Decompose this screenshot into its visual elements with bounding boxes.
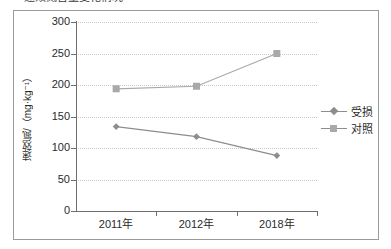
diamond-marker-icon — [321, 106, 347, 118]
data-point-square-1[interactable] — [193, 83, 200, 90]
data-point-diamond-2[interactable] — [273, 152, 280, 159]
figure-frame: 速效氮/（mg·kg⁻¹） 050100150200250300 2011年20… — [13, 10, 379, 240]
legend-item-shousun[interactable]: 受损 — [321, 103, 379, 120]
square-marker-icon — [321, 123, 347, 135]
legend-item-duizhao[interactable]: 对照 — [321, 120, 379, 137]
series-shousun — [113, 123, 280, 159]
series-duizhao — [113, 50, 281, 92]
data-point-square-0[interactable] — [113, 85, 120, 92]
figure-caption-clipped: 速效氮含量变化情况 — [24, 0, 354, 4]
data-point-square-2[interactable] — [273, 50, 280, 57]
data-point-diamond-0[interactable] — [113, 123, 120, 130]
legend-label-shousun: 受损 — [351, 106, 373, 118]
legend-label-duizhao: 对照 — [351, 123, 373, 135]
series-line — [116, 127, 277, 156]
figure-caption-text: 速效氮含量变化情况 — [24, 0, 354, 3]
chart-legend: 受损 对照 — [321, 103, 379, 137]
data-point-diamond-1[interactable] — [193, 133, 200, 140]
